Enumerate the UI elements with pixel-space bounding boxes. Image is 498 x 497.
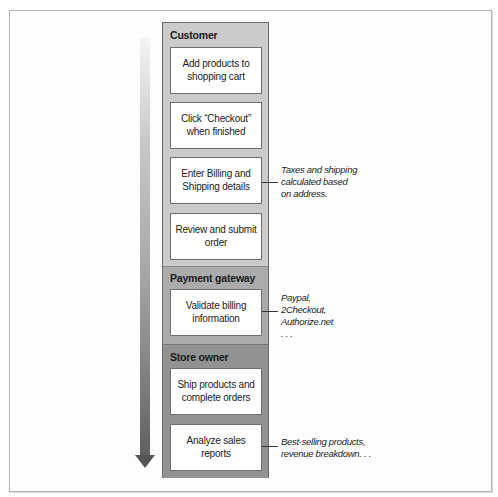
annotation-connector-payment xyxy=(262,311,278,312)
process-stack: Customer Add products to shopping cart C… xyxy=(162,22,269,478)
section-title-store-owner: Store owner xyxy=(170,351,228,363)
section-customer: Customer Add products to shopping cart C… xyxy=(163,23,268,266)
step-click-checkout: Click “Checkout” when finished xyxy=(170,102,262,149)
annotation-reports: Best-selling products, revenue breakdown… xyxy=(281,436,371,460)
step-enter-billing: Enter Billing and Shipping details xyxy=(170,157,262,204)
step-ship-products: Ship products and complete orders xyxy=(170,368,262,415)
annotation-line: Best-selling products, xyxy=(281,436,371,448)
step-analyze-sales: Analyze sales reports xyxy=(170,424,262,471)
section-title-customer: Customer xyxy=(170,29,217,41)
annotation-line: 2Checkout, xyxy=(281,304,333,316)
annotation-line: calculated based xyxy=(281,176,357,188)
annotation-line: revenue breakdown. . . xyxy=(281,448,371,460)
step-review-submit: Review and submit order xyxy=(170,213,262,260)
annotation-connector-reports xyxy=(262,446,278,447)
step-add-products: Add products to shopping cart xyxy=(170,47,262,94)
annotation-line: Authorize.net xyxy=(281,316,333,328)
annotation-line: on address. xyxy=(281,188,357,200)
annotation-line: Paypal, xyxy=(281,292,333,304)
section-payment-gateway: Payment gateway Validate billing informa… xyxy=(163,266,268,344)
annotation-payment-providers: Paypal, 2Checkout, Authorize.net . . . xyxy=(281,292,333,340)
annotation-line: . . . xyxy=(281,328,333,340)
section-title-payment-gateway: Payment gateway xyxy=(170,272,255,284)
annotation-line: Taxes and shipping xyxy=(281,164,357,176)
step-validate-billing: Validate billing information xyxy=(170,289,262,336)
section-store-owner: Store owner Ship products and complete o… xyxy=(163,344,268,478)
arrow-down-icon xyxy=(135,455,155,468)
flow-arrow-shaft xyxy=(140,38,150,456)
annotation-taxes: Taxes and shipping calculated based on a… xyxy=(281,164,357,200)
annotation-connector-taxes xyxy=(262,182,278,183)
